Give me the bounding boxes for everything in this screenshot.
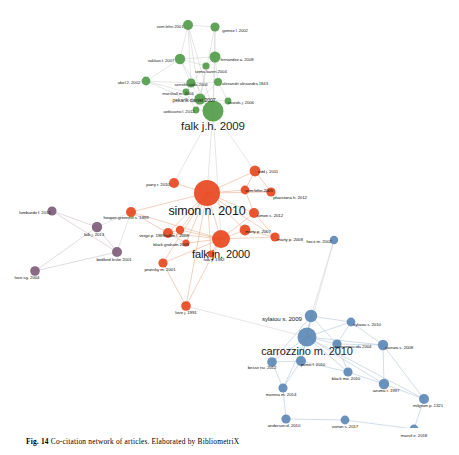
graph-edge bbox=[283, 388, 286, 419]
graph-node[interactable] bbox=[176, 226, 184, 234]
figure-container: falk j.h. 2009vom lehn 2001gomez l. 2002… bbox=[0, 0, 459, 455]
graph-node[interactable] bbox=[193, 107, 200, 114]
graph-edge bbox=[383, 345, 384, 384]
graph-edge bbox=[311, 240, 334, 316]
graph-node[interactable] bbox=[194, 93, 205, 104]
graph-node[interactable] bbox=[181, 301, 191, 311]
graph-edge bbox=[117, 212, 131, 252]
graph-node[interactable] bbox=[267, 357, 277, 367]
graph-node[interactable] bbox=[281, 414, 290, 423]
graph-node[interactable] bbox=[250, 166, 261, 177]
graph-node[interactable] bbox=[182, 239, 189, 246]
graph-node[interactable] bbox=[249, 208, 259, 218]
graph-node[interactable] bbox=[305, 310, 317, 322]
graph-node[interactable] bbox=[202, 62, 209, 69]
graph-node[interactable] bbox=[410, 425, 419, 428]
graph-node[interactable] bbox=[163, 228, 173, 238]
graph-edge bbox=[35, 252, 117, 271]
graph-node[interactable] bbox=[214, 78, 222, 86]
graph-node[interactable] bbox=[419, 394, 429, 404]
caption-text: Co-citation network of articles. Elabora… bbox=[51, 437, 240, 446]
graph-node[interactable] bbox=[241, 186, 250, 195]
network-svg bbox=[0, 0, 459, 428]
graph-node[interactable] bbox=[278, 383, 287, 392]
graph-edge bbox=[307, 337, 424, 399]
graph-node[interactable] bbox=[208, 251, 215, 258]
graph-node[interactable] bbox=[183, 89, 190, 96]
graph-node[interactable] bbox=[203, 101, 224, 122]
caption-label: Fig. 14 bbox=[26, 437, 49, 446]
graph-node[interactable] bbox=[296, 356, 306, 366]
graph-node[interactable] bbox=[225, 98, 232, 105]
graph-node[interactable] bbox=[169, 178, 179, 188]
graph-edge bbox=[131, 212, 221, 239]
graph-node[interactable] bbox=[379, 379, 389, 389]
graph-node[interactable] bbox=[210, 52, 221, 63]
graph-node[interactable] bbox=[332, 339, 341, 348]
graph-edge bbox=[383, 345, 424, 399]
graph-node[interactable] bbox=[47, 206, 56, 215]
graph-node[interactable] bbox=[266, 187, 275, 196]
graph-node[interactable] bbox=[378, 340, 388, 350]
graph-node[interactable] bbox=[142, 77, 151, 86]
graph-edge bbox=[52, 211, 117, 252]
graph-node[interactable] bbox=[30, 266, 40, 276]
graph-edge bbox=[301, 361, 348, 372]
graph-edge bbox=[180, 25, 188, 59]
graph-node[interactable] bbox=[347, 318, 356, 327]
graph-edge bbox=[186, 306, 307, 337]
graph-node[interactable] bbox=[240, 225, 251, 236]
graph-node[interactable] bbox=[158, 258, 167, 267]
graph-node[interactable] bbox=[126, 207, 136, 217]
graph-node[interactable] bbox=[112, 247, 122, 257]
graph-edge bbox=[52, 211, 97, 227]
graph-node[interactable] bbox=[341, 416, 350, 425]
graph-node[interactable] bbox=[330, 236, 338, 244]
graph-edge bbox=[131, 212, 168, 233]
graph-edge bbox=[97, 212, 131, 227]
graph-node[interactable] bbox=[183, 20, 193, 30]
figure-caption: Fig. 14 Co-citation network of articles.… bbox=[26, 437, 446, 454]
graph-edge bbox=[213, 111, 255, 171]
graph-edge bbox=[146, 59, 180, 81]
graph-edge bbox=[35, 227, 97, 271]
graph-node[interactable] bbox=[212, 230, 230, 248]
graph-edge bbox=[351, 322, 383, 345]
node-group bbox=[30, 20, 429, 428]
graph-node[interactable] bbox=[210, 22, 219, 31]
graph-edge bbox=[213, 111, 221, 239]
graph-node[interactable] bbox=[175, 54, 185, 64]
graph-node[interactable] bbox=[343, 367, 352, 376]
graph-edge bbox=[348, 372, 384, 384]
graph-edge bbox=[163, 263, 186, 306]
graph-node[interactable] bbox=[92, 222, 102, 232]
graph-edge bbox=[186, 239, 221, 306]
graph-node[interactable] bbox=[194, 180, 220, 206]
graph-node[interactable] bbox=[186, 78, 195, 87]
graph-edge bbox=[174, 111, 213, 183]
co-citation-network-graph[interactable]: falk j.h. 2009vom lehn 2001gomez l. 2002… bbox=[0, 0, 459, 428]
graph-edge bbox=[286, 419, 345, 420]
graph-node[interactable] bbox=[298, 328, 317, 347]
graph-edge bbox=[345, 420, 414, 428]
graph-node[interactable] bbox=[270, 232, 279, 241]
